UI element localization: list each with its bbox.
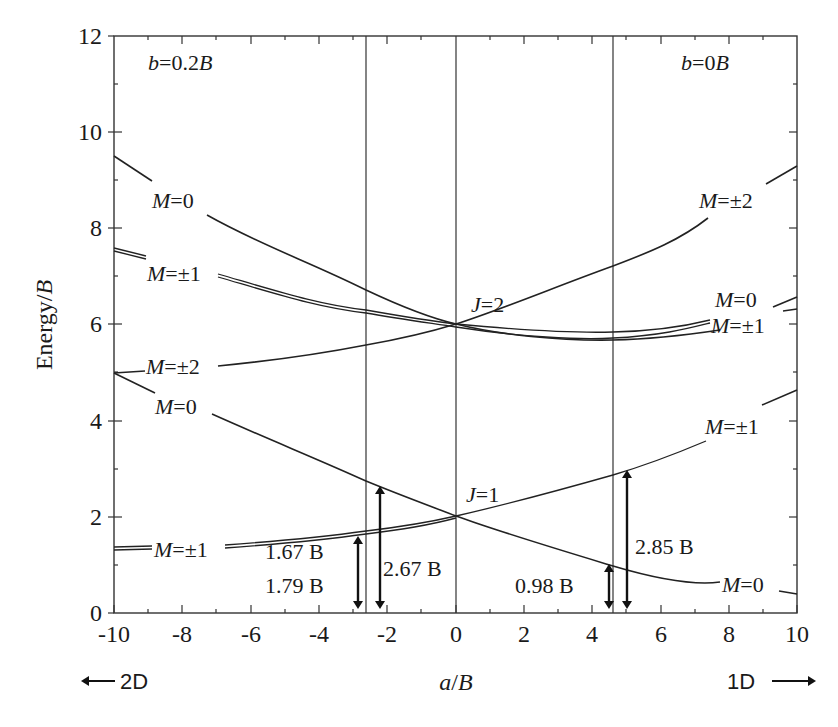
y-tick-label: 6 xyxy=(90,311,102,337)
x-tick-label: 4 xyxy=(586,621,598,647)
energy-level-chart: -10 -8 -6 -4 -2 0 2 4 6 8 10 0 2 4 6 8 1… xyxy=(0,0,838,727)
annotation-1-79: 1.79 B xyxy=(265,573,324,598)
x-tick-label: -6 xyxy=(241,621,261,647)
svg-text:2D: 2D xyxy=(120,669,148,694)
x-tick-label: -2 xyxy=(377,621,397,647)
x-tick-labels: -10 -8 -6 -4 -2 0 2 4 6 8 10 xyxy=(98,621,809,647)
y-tick-label: 12 xyxy=(78,23,102,49)
y-tick-label: 10 xyxy=(78,119,102,145)
y-tick-labels: 0 2 4 6 8 10 12 xyxy=(78,23,102,626)
x-axis-title: a/B xyxy=(439,669,473,695)
label-j2-m1-right: M=±1 xyxy=(710,313,765,338)
y-tick-label: 8 xyxy=(90,215,102,241)
x-tick-label: 6 xyxy=(655,621,667,647)
x-tick-label: 8 xyxy=(723,621,735,647)
curve-j2-m0 xyxy=(114,156,152,181)
y-axis-title: Energy/B xyxy=(31,280,57,371)
x-tick-label: 0 xyxy=(450,621,462,647)
x-tick-label: 2 xyxy=(518,621,530,647)
annotation-1-67: 1.67 B xyxy=(265,539,324,564)
x-tick-label: 10 xyxy=(785,621,809,647)
curve-j2-m0-right xyxy=(773,297,797,307)
curve-j1-m0-right xyxy=(779,591,797,594)
curve-j2-m2 xyxy=(218,218,708,366)
annotation-0-98: 0.98 B xyxy=(515,573,574,598)
direction-1d: 1D xyxy=(727,669,812,694)
annotation-2-85: 2.85 B xyxy=(635,534,694,559)
curve-j2-m2-right xyxy=(766,166,797,184)
direction-2d: 2D xyxy=(85,669,148,694)
label-j2-m2-left: M=±2 xyxy=(145,354,200,379)
label-j1-m1-right: M=±1 xyxy=(704,414,759,439)
panel-label-left: b=0.2B xyxy=(148,50,212,75)
x-tick-label: -10 xyxy=(98,621,130,647)
x-tick-label: -8 xyxy=(172,621,192,647)
y-tick-label: 2 xyxy=(90,504,102,530)
label-j2: J=2 xyxy=(471,292,504,317)
label-j2-m2-right: M=±2 xyxy=(698,188,753,213)
label-j1-m0-right: M=0 xyxy=(721,572,764,597)
label-j2-m1-left: M=±1 xyxy=(146,261,201,286)
svg-text:1D: 1D xyxy=(727,669,755,694)
annotation-2-67: 2.67 B xyxy=(383,556,442,581)
label-j2-m0-right: M=0 xyxy=(714,287,757,312)
label-j1-m0-left: M=0 xyxy=(154,394,197,419)
curve-j2-m2 xyxy=(114,371,145,373)
label-j2-m0-left: M=0 xyxy=(151,188,194,213)
panel-label-right: b=0B xyxy=(681,50,729,75)
y-tick-label: 4 xyxy=(90,408,102,434)
label-j1-m1-left: M=±1 xyxy=(153,537,208,562)
x-tick-label: -4 xyxy=(309,621,329,647)
label-j1: J=1 xyxy=(466,482,499,507)
y-tick-label: 0 xyxy=(90,600,102,626)
